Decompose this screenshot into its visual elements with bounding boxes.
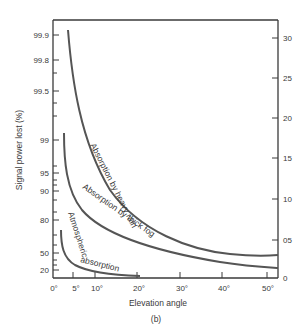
y-right-tick-label: 0 — [283, 274, 288, 283]
y-left-tick-label: 99.8 — [33, 56, 49, 65]
y-right-tick-label: 25 — [283, 74, 292, 83]
x-tick-label: 30° — [176, 284, 188, 293]
x-tick-label: 40° — [218, 284, 230, 293]
heavy-rain-curve — [68, 30, 278, 256]
atmospheric-absorption-label-part2: absorption — [80, 254, 121, 273]
y-left-tick-label: 90 — [40, 187, 49, 196]
y-left-tick-label: 20 — [40, 266, 49, 275]
y-left-tick-label: 99 — [40, 136, 49, 145]
x-tick-label: 10° — [91, 284, 103, 293]
x-tick-label: 20° — [133, 284, 145, 293]
y-right-tick-label: 05 — [283, 236, 292, 245]
x-axis-title: Elevation angle — [129, 298, 187, 308]
x-tick-label: 0° — [50, 284, 58, 293]
y-left-tick-label: 80 — [40, 216, 49, 225]
left-axis-labels: 99.9 99.8 99.5 99 95 90 80 50 20 — [33, 31, 49, 275]
x-axis-labels: 0° 5° 10° 20° 30° 40° 50° — [50, 284, 274, 293]
left-axis — [53, 35, 59, 270]
y-right-tick-label: 20 — [283, 114, 292, 123]
y-left-tick-label: 50 — [40, 249, 49, 258]
y-right-tick-label: 30 — [283, 34, 292, 43]
y-right-tick-label: 15 — [283, 154, 292, 163]
y-left-tick-label: 99.5 — [33, 87, 49, 96]
atmospheric-absorption-label-part1: Atmospheric — [66, 211, 90, 260]
y-axis-title: Signal power lost (%) — [14, 110, 24, 190]
figure-caption: (b) — [151, 314, 162, 324]
right-axis-labels: 30 25 20 15 10 05 0 — [283, 34, 292, 283]
right-axis — [272, 38, 278, 240]
x-tick-label: 5° — [72, 284, 80, 293]
y-right-tick-label: 10 — [283, 195, 292, 204]
x-tick-label: 50° — [262, 284, 274, 293]
y-left-tick-label: 99.9 — [33, 31, 49, 40]
plot-frame — [53, 20, 278, 278]
y-left-tick-label: 95 — [40, 169, 49, 178]
chart: 99.9 99.8 99.5 99 95 90 80 50 20 30 25 2… — [0, 0, 308, 333]
